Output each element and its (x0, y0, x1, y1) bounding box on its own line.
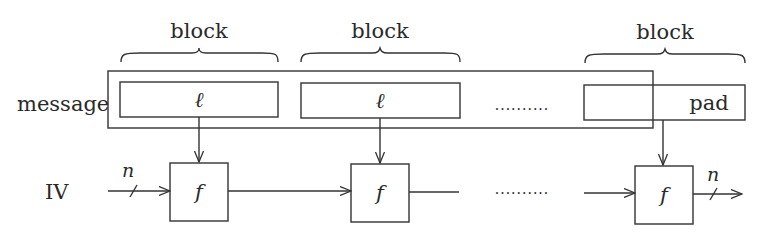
message-block-2: ℓ (301, 83, 460, 118)
message-block-pad: pad (584, 85, 745, 120)
message-block-1: ℓ (120, 82, 278, 117)
block-label: block (636, 20, 694, 44)
block-label: block (170, 19, 228, 43)
hash-construction-diagram: block block block message ℓ ℓ ..........… (0, 0, 763, 244)
compression-box-2: f (351, 164, 409, 222)
iv-label: IV (45, 180, 69, 204)
compression-box-3: f (635, 166, 693, 224)
f-label: f (193, 180, 206, 204)
block-brace-1: block (121, 19, 278, 62)
message-label: message (17, 92, 109, 116)
input-width-label: n (122, 159, 134, 181)
f-label: f (658, 183, 671, 207)
f-label: f (374, 181, 387, 205)
output-width-label: n (707, 163, 719, 185)
compression-box-1: f (170, 163, 228, 221)
block-content: ℓ (376, 89, 385, 113)
block-ellipsis: .......... (495, 97, 550, 113)
chain-ellipsis: .......... (495, 181, 550, 197)
pad-label: pad (689, 91, 728, 115)
block-brace-2: block (301, 19, 460, 62)
block-label: block (351, 19, 409, 43)
block-brace-3: block (585, 20, 745, 63)
block-content: ℓ (195, 88, 204, 112)
